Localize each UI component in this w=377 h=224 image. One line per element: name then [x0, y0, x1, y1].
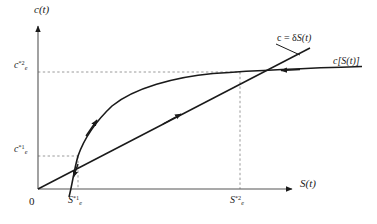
dashed-guide-lines — [38, 72, 240, 189]
x-tick-label-s-star-2: S*2e — [230, 195, 244, 206]
economic-phase-diagram-figure: c(t) S(t) 0 c = δS(t) c[S(t)] c*2e c*1e … — [0, 0, 377, 224]
subscript-e: e — [25, 64, 28, 71]
y-tick-label-c-star-2: c*2e — [14, 60, 27, 71]
plot-canvas — [0, 0, 377, 224]
y-axis-label: c(t) — [34, 4, 49, 15]
subscript-e: e — [25, 148, 28, 155]
consumption-curve-label: c[S(t)] — [333, 56, 360, 66]
consumption-curve-label-text: c[S(t)] — [333, 55, 360, 66]
arrow-up-right-curve — [86, 120, 97, 136]
x-tick-label-s-star-1: S*1e — [68, 195, 82, 206]
subscript-e: e — [241, 199, 244, 206]
delta-ray-label-suffix: S(t) — [297, 32, 311, 43]
consumption-curve — [69, 67, 362, 198]
direction-arrows — [74, 70, 301, 178]
origin-label: 0 — [29, 196, 35, 207]
origin-label-text: 0 — [29, 195, 35, 207]
x-axis-label-text: S(t) — [300, 177, 316, 189]
line-label-leader — [276, 44, 300, 55]
subscript-e: e — [79, 199, 82, 206]
delta-ray-label-prefix: c = — [277, 32, 292, 43]
delta-ray-label: c = δS(t) — [277, 33, 311, 43]
arrow-up-right-ray — [163, 114, 181, 124]
x-axis-label: S(t) — [300, 178, 316, 189]
arrow-left-high-eq — [281, 70, 300, 71]
y-tick-label-c-star-1: c*1e — [14, 144, 27, 155]
y-axis-label-text: c(t) — [34, 3, 49, 15]
